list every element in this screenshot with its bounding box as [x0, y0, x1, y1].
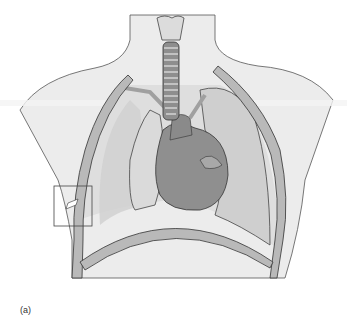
thorax-diagram: [0, 0, 347, 328]
figure-caption: (a): [20, 305, 31, 315]
